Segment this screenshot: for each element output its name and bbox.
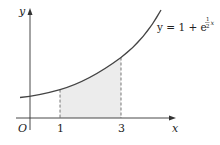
shaded-region — [60, 58, 121, 119]
curve-label-exp-var: x — [211, 19, 215, 27]
graph: y x O 1 3 y = 1 + e 1 2 x — [0, 0, 220, 145]
origin-label: O — [18, 122, 27, 135]
y-axis-arrow-icon — [28, 8, 33, 15]
y-axis-label: y — [18, 5, 26, 18]
curve-label: y = 1 + e — [156, 21, 207, 33]
curve-label-exp-num: 1 — [206, 16, 210, 22]
curve-label-exp-den: 2 — [206, 23, 210, 29]
tick-label-3: 3 — [118, 122, 125, 135]
x-axis-label: x — [172, 122, 179, 135]
x-axis-arrow-icon — [169, 116, 176, 121]
tick-label-1: 1 — [57, 122, 64, 135]
